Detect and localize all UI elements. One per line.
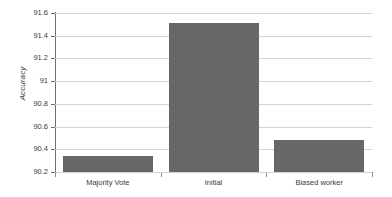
x-tick-mark	[55, 173, 56, 177]
x-tick-mark	[161, 173, 162, 177]
gridline	[55, 13, 372, 14]
x-tick-mark	[266, 173, 267, 177]
x-axis-category-label: Biased worker	[266, 178, 372, 187]
bar	[274, 140, 364, 172]
y-tick-label: 90.2	[8, 167, 48, 176]
y-tick-label: 90.8	[8, 99, 48, 108]
y-tick-label: 91.2	[8, 53, 48, 62]
x-axis-category-label: Majority Vote	[55, 178, 161, 187]
bar	[169, 23, 259, 172]
bar	[63, 156, 153, 172]
y-tick-label: 91.4	[8, 31, 48, 40]
y-tick-label: 90.6	[8, 122, 48, 131]
gridline	[55, 172, 372, 173]
y-tick-label: 90.4	[8, 144, 48, 153]
x-tick-mark	[372, 173, 373, 177]
x-axis-category-label: Initial	[161, 178, 267, 187]
y-tick-label: 91.6	[8, 8, 48, 17]
bar-chart: Accuracy 90.290.490.690.89191.291.491.6 …	[0, 0, 392, 197]
plot-area	[55, 13, 372, 172]
y-tick-label: 91	[8, 76, 48, 85]
